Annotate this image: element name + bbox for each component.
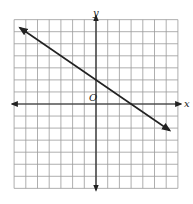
x-axis-label: x	[184, 98, 190, 109]
y-axis-label: y	[92, 7, 99, 18]
coordinate-plane: x y O	[0, 0, 193, 204]
origin-label: O	[89, 92, 97, 103]
plotted-line	[20, 28, 170, 131]
data-line	[20, 28, 170, 131]
